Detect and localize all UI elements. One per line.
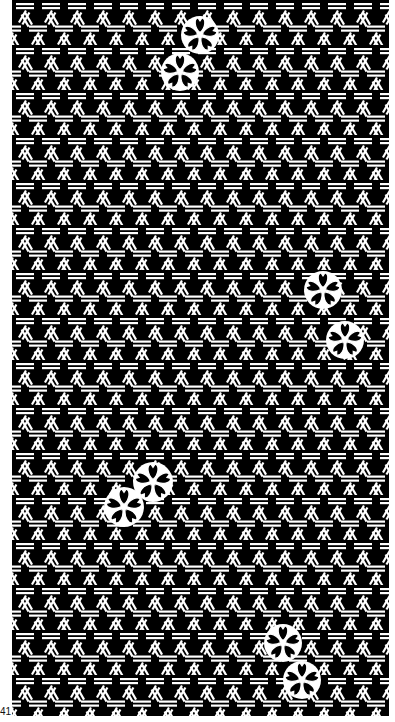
artwork-canvas: 41 (0, 0, 395, 722)
woven-pattern (12, 0, 389, 716)
corner-label: 41 (0, 706, 11, 717)
